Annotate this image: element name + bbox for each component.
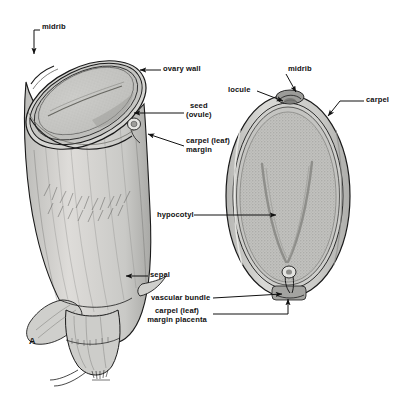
leader-margin-placenta — [213, 299, 288, 314]
figure-canvas: midrib ovary wall seed (ovule) carpel (l… — [0, 0, 412, 401]
midrib-right-structure — [276, 90, 304, 104]
leader-midrib-right — [286, 74, 296, 92]
label-seed-ovule: seed (ovule) — [186, 101, 212, 119]
label-margin-placenta: carpel (leaf) margin placenta — [140, 306, 214, 324]
label-ovary-wall: ovary wall — [163, 64, 201, 73]
panel-label-a: A — [29, 336, 36, 346]
label-hypocotyl: hypocotyl — [157, 210, 194, 219]
leader-midrib-left — [34, 30, 40, 54]
leader-carpel — [328, 101, 364, 116]
right-ovary-figure — [226, 90, 350, 300]
label-carpel: carpel — [366, 95, 389, 104]
leader-carpel-margin — [148, 134, 184, 146]
label-locule: locule — [228, 85, 251, 94]
label-sepal: sepal — [150, 270, 170, 279]
label-midrib-left: midrib — [42, 22, 66, 31]
midrib-ridge-left — [31, 66, 54, 84]
label-midrib-right: midrib — [288, 64, 312, 73]
label-carpel-leaf-margin: carpel (leaf) margin — [186, 136, 230, 154]
botanical-illustration — [0, 0, 412, 401]
left-ovary-figure — [12, 43, 166, 386]
label-vascular-bundle: vascular bundle — [151, 293, 210, 302]
